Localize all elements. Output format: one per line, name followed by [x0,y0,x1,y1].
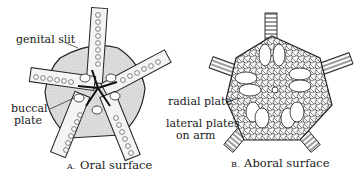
caption-oral-text: Oral surface [80,158,152,172]
caption-aboral-text: Aboral surface [244,156,329,170]
aboral-surface-drawing [209,13,353,152]
oral-surface-drawing [29,8,171,161]
panel-letter-a: A. [67,162,76,171]
illustration-drawing [0,0,364,179]
brittle-star-figure: genital slit buccal plate A. Oral surfac… [0,0,364,179]
panel-letter-b: B. [231,160,240,169]
label-buccal-plate-line2: plate [14,115,42,127]
label-genital-slit: genital slit [16,34,75,46]
label-radial-plate: radial plate [168,96,232,108]
caption-oral-surface: A. Oral surface [67,159,152,173]
label-lateral-plates-line2: on arm [176,130,215,142]
caption-aboral-surface: B. Aboral surface [231,157,330,171]
